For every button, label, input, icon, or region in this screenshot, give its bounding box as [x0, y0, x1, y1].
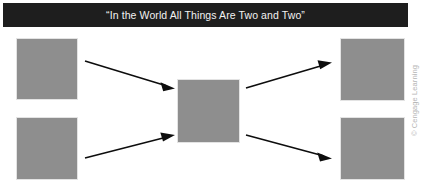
arrow-bottom-left-to-center [85, 133, 175, 158]
arrow-top-left-to-center [85, 61, 175, 91]
arrow-center-to-top-right [246, 60, 332, 88]
concept-box-top-left [16, 38, 78, 100]
title-banner: “In the World All Things Are Two and Two… [3, 3, 408, 27]
copyright-credit: © Cengage Learning [410, 58, 419, 144]
concept-box-bottom-right [340, 117, 405, 180]
concept-box-center [177, 79, 240, 143]
concept-box-top-right [340, 38, 405, 101]
concept-box-bottom-left [16, 117, 78, 180]
arrow-center-to-bottom-right [246, 135, 332, 161]
page-title: “In the World All Things Are Two and Two… [106, 10, 305, 21]
figure-canvas: “In the World All Things Are Two and Two… [0, 0, 429, 191]
